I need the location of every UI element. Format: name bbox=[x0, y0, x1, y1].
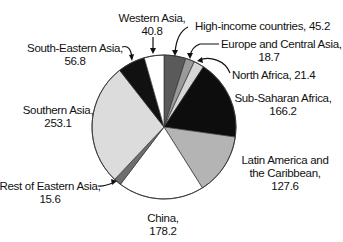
value-sub-saharan-africa: 166.2 bbox=[269, 105, 296, 117]
label-china: China, bbox=[147, 212, 179, 224]
arrow-high-income-icon bbox=[175, 27, 188, 53]
arrowhead-south-eastern-asia-icon bbox=[129, 54, 134, 61]
value-south-eastern-asia: 56.8 bbox=[64, 55, 85, 67]
label-western-asia: Western Asia, bbox=[119, 12, 186, 24]
value-southern-asia: 253.1 bbox=[44, 117, 71, 129]
label-high-income: High-income countries, 45.2 bbox=[195, 20, 330, 32]
value-rest-eastern-asia: 15.6 bbox=[39, 193, 60, 205]
arrow-europe-icon bbox=[190, 44, 219, 56]
label-rest-eastern-asia: Rest of Eastern Asia, bbox=[0, 180, 101, 192]
arrowhead-north-africa-icon bbox=[197, 57, 203, 63]
value-china: 178.2 bbox=[149, 225, 176, 237]
label-latin-america-line1: Latin America and bbox=[242, 154, 329, 166]
pie-chart: Western Asia, 40.8 South-Eastern Asia, 5… bbox=[0, 0, 343, 242]
label-north-africa: North Africa, 21.4 bbox=[232, 69, 316, 81]
arrowhead-europe-icon bbox=[187, 53, 193, 59]
value-latin-america: 127.6 bbox=[271, 180, 298, 192]
label-latin-america-line2: the Caribbean, bbox=[249, 167, 320, 179]
label-europe-central-asia: Europe and Central Asia, bbox=[221, 38, 342, 50]
label-sub-saharan-africa: Sub-Saharan Africa, bbox=[234, 92, 331, 104]
value-western-asia: 40.8 bbox=[141, 25, 162, 37]
value-europe-central-asia: 18.7 bbox=[258, 51, 279, 63]
pie-slices bbox=[92, 55, 236, 199]
label-south-eastern-asia: South-Eastern Asia, bbox=[27, 42, 123, 54]
arrowhead-western-asia-icon bbox=[150, 48, 156, 54]
label-southern-asia: Southern Asia, bbox=[23, 104, 94, 116]
